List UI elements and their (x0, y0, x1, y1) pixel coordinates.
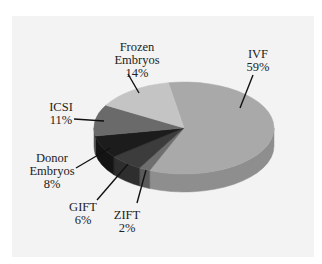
label-value: 14% (112, 67, 162, 80)
label-icsi: ICSI 11% (44, 101, 78, 127)
label-frozen-embryos: Frozen Embryos 14% (112, 41, 162, 80)
label-zift: ZIFT 2% (110, 209, 144, 235)
label-ivf: IVF 59% (240, 48, 276, 74)
label-value: 2% (110, 222, 144, 235)
label-value: 11% (44, 114, 78, 127)
label-value: 8% (24, 178, 80, 191)
label-value: 59% (240, 61, 276, 74)
label-donor-embryos: Donor Embryos 8% (24, 152, 80, 191)
label-value: 6% (66, 214, 100, 227)
label-gift: GIFT 6% (66, 201, 100, 227)
pie-chart (0, 0, 322, 264)
